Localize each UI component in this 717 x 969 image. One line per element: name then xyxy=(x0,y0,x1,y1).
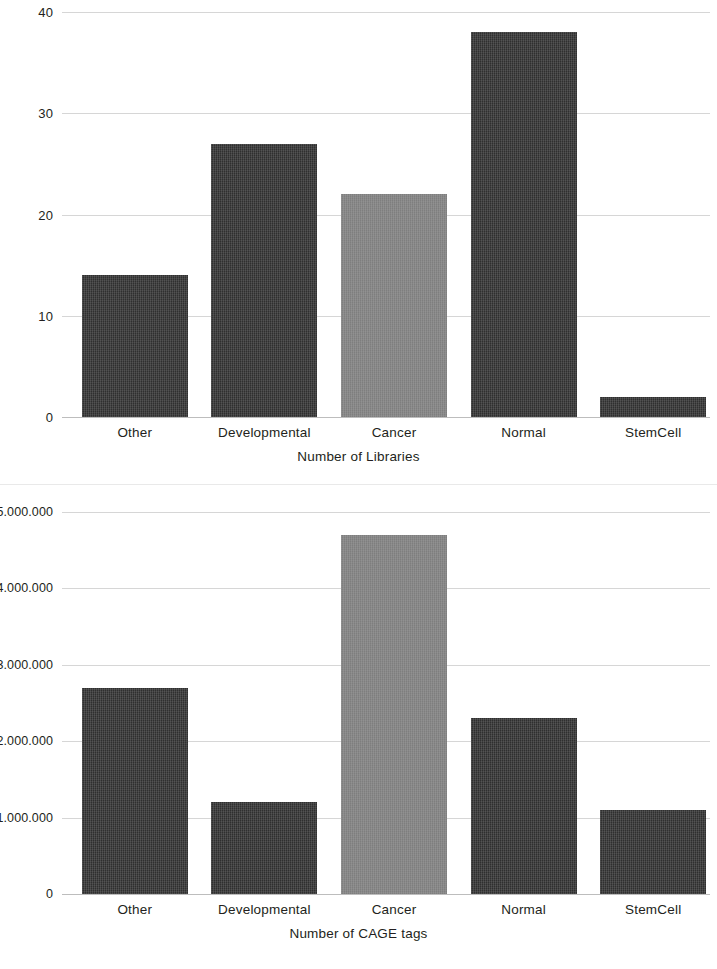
axis-baseline xyxy=(62,894,710,895)
bar-series-libraries xyxy=(62,12,710,417)
chart-panel-number-of-cage-tags: 01.000.0002.000.0003.000.0004.000.0005.0… xyxy=(0,485,717,969)
y-axis-tick-label: 1.000.000 xyxy=(0,811,53,825)
bar-cancer xyxy=(341,194,447,417)
x-axis-label-other: Other xyxy=(117,902,152,917)
y-axis-tick-label: 3.000.000 xyxy=(0,658,53,672)
x-axis-label-developmental: Developmental xyxy=(218,425,311,440)
x-axis-label-developmental: Developmental xyxy=(218,902,311,917)
x-axis-title-cage-tags: Number of CAGE tags xyxy=(0,926,717,941)
chart-panel-number-of-libraries: 010203040 OtherDevelopmentalCancerNormal… xyxy=(0,0,717,470)
y-axis-tick-label: 0 xyxy=(46,410,53,425)
bar-cancer xyxy=(341,535,447,894)
y-axis-tick-label: 4.000.000 xyxy=(0,581,53,595)
x-axis-label-stemcell: StemCell xyxy=(625,425,681,440)
bar-series-cage-tags xyxy=(62,512,710,894)
y-axis-tick-label: 20 xyxy=(38,207,53,222)
plot-area-cage-tags: 01.000.0002.000.0003.000.0004.000.0005.0… xyxy=(62,512,710,894)
bar-developmental xyxy=(211,144,317,417)
axis-baseline xyxy=(62,417,710,418)
y-axis-tick-label: 30 xyxy=(38,106,53,121)
x-axis-label-other: Other xyxy=(117,425,152,440)
x-axis-label-stemcell: StemCell xyxy=(625,902,681,917)
y-axis-tick-label: 2.000.000 xyxy=(0,734,53,748)
two-panel-bar-chart-figure: 010203040 OtherDevelopmentalCancerNormal… xyxy=(0,0,717,969)
x-axis-title-libraries: Number of Libraries xyxy=(0,449,717,464)
y-axis-tick-label: 10 xyxy=(38,308,53,323)
x-axis-label-normal: Normal xyxy=(501,425,546,440)
bar-other xyxy=(82,275,188,417)
y-axis-tick-label: 40 xyxy=(38,5,53,20)
x-axis-label-cancer: Cancer xyxy=(372,902,417,917)
bar-stemcell xyxy=(600,810,706,894)
bar-normal xyxy=(471,32,577,417)
y-axis-tick-label: 5.000.000 xyxy=(0,505,53,519)
bar-other xyxy=(82,688,188,894)
plot-area-libraries: 010203040 xyxy=(62,12,710,417)
bar-stemcell xyxy=(600,397,706,417)
bar-normal xyxy=(471,718,577,894)
y-axis-tick-label: 0 xyxy=(46,887,53,901)
x-axis-label-cancer: Cancer xyxy=(372,425,417,440)
bar-developmental xyxy=(211,802,317,894)
x-axis-label-normal: Normal xyxy=(501,902,546,917)
